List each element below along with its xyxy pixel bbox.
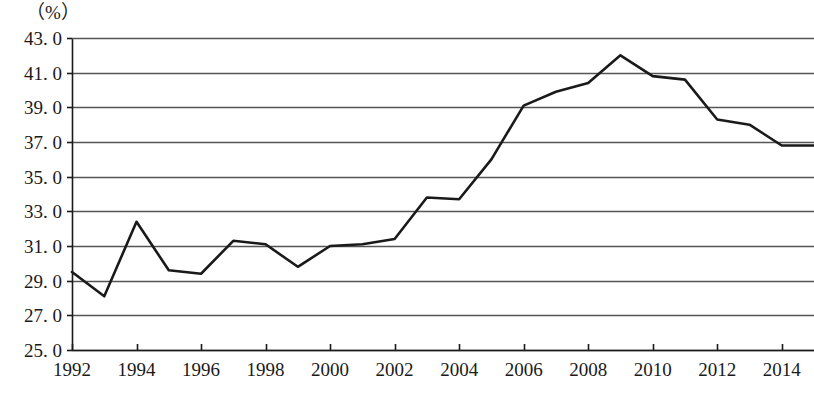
gridlines [72, 74, 814, 351]
plot-area [0, 0, 814, 406]
y-axis-tick-marks [67, 39, 72, 351]
x-axis-tick-marks [73, 344, 783, 350]
line-chart: （%） 43. 041. 039. 037. 035. 033. 031. 02… [0, 0, 814, 406]
data-series-line [72, 55, 814, 296]
